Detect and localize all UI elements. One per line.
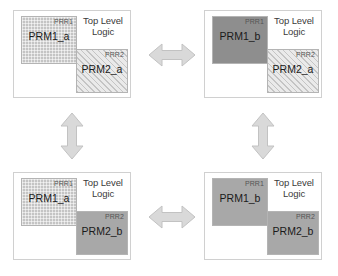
top-level-logic-line2: Logic <box>283 26 305 37</box>
bidirectional-arrow-vertical-right-icon <box>249 113 277 159</box>
prr1-module-name: PRM1_b <box>213 192 267 204</box>
prr2-module-name: PRM2_a <box>77 63 127 75</box>
prr2-module-name: PRM2_a <box>268 63 318 75</box>
block-prr2: PRR2 PRM2_b <box>76 211 128 255</box>
block-prr1: PRR1 PRM1_a <box>21 16 77 64</box>
bidirectional-arrow-vertical-left-icon <box>58 113 86 159</box>
top-level-logic-line1: Top Level <box>83 177 123 188</box>
panel-bottom-right: Top Level Logic PRR1 PRM1_b PRR2 PRM2_b <box>204 172 322 260</box>
prr1-module-name: PRM1_b <box>213 30 267 42</box>
block-prr1: PRR1 PRM1_b <box>212 178 268 226</box>
prr2-region-tag: PRR2 <box>105 51 124 58</box>
block-prr2: PRR2 PRM2_a <box>76 49 128 93</box>
prr1-module-name: PRM1_a <box>22 192 76 204</box>
prr1-region-tag: PRR1 <box>245 18 264 25</box>
prr2-region-tag: PRR2 <box>296 213 315 220</box>
block-prr2: PRR2 PRM2_a <box>267 49 319 93</box>
top-level-logic-line2: Logic <box>92 26 114 37</box>
top-level-logic-line1: Top Level <box>274 15 314 26</box>
top-level-logic-label: Top Level Logic <box>76 15 130 37</box>
bidirectional-arrow-horizontal-top-icon <box>149 41 195 69</box>
top-level-logic-line1: Top Level <box>274 177 314 188</box>
bidirectional-arrow-horizontal-bottom-icon <box>149 203 195 231</box>
top-level-logic-label: Top Level Logic <box>76 177 130 199</box>
prr1-region-tag: PRR1 <box>54 18 73 25</box>
prr2-module-name: PRM2_b <box>77 225 127 237</box>
block-prr1: PRR1 PRM1_b <box>212 16 268 64</box>
top-level-logic-label: Top Level Logic <box>267 177 321 199</box>
top-level-logic-label: Top Level Logic <box>267 15 321 37</box>
top-level-logic-line2: Logic <box>283 188 305 199</box>
top-level-logic-line2: Logic <box>92 188 114 199</box>
block-prr2: PRR2 PRM2_b <box>267 211 319 255</box>
panel-top-left: Top Level Logic PRR1 PRM1_a PRR2 PRM2_a <box>13 10 131 98</box>
prr2-region-tag: PRR2 <box>105 213 124 220</box>
prr2-region-tag: PRR2 <box>296 51 315 58</box>
block-prr1: PRR1 PRM1_a <box>21 178 77 226</box>
configuration-matrix-diagram: Top Level Logic PRR1 PRM1_a PRR2 PRM2_a … <box>0 0 338 276</box>
prr1-module-name: PRM1_a <box>22 30 76 42</box>
panel-bottom-left: Top Level Logic PRR1 PRM1_a PRR2 PRM2_b <box>13 172 131 260</box>
prr2-module-name: PRM2_b <box>268 225 318 237</box>
panel-top-right: Top Level Logic PRR1 PRM1_b PRR2 PRM2_a <box>204 10 322 98</box>
top-level-logic-line1: Top Level <box>83 15 123 26</box>
prr1-region-tag: PRR1 <box>54 180 73 187</box>
prr1-region-tag: PRR1 <box>245 180 264 187</box>
